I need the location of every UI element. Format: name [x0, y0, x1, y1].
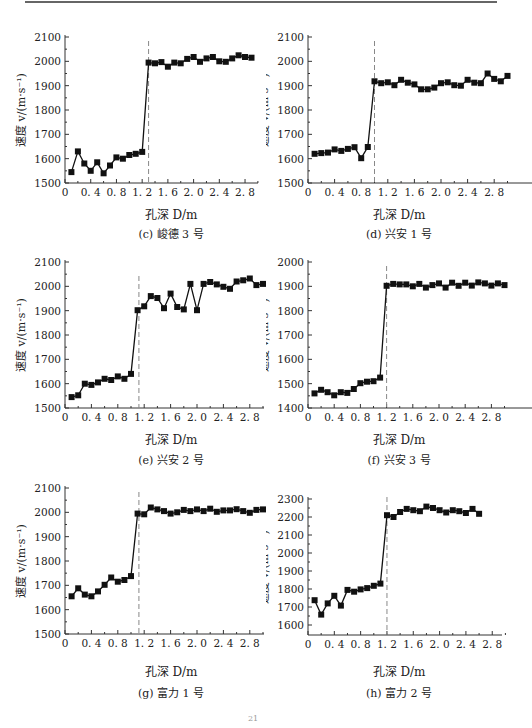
chart-panel-g: 150016001700180019002000210000. 40. 81. … [0, 470, 266, 702]
chart-caption: (c) 峻德 3 号 [38, 225, 304, 241]
data-point-marker [194, 506, 200, 512]
data-point-marker [95, 379, 101, 385]
data-point-marker [338, 148, 344, 154]
y-tick-label: 2000 [34, 506, 61, 518]
y-tick-label: 1900 [34, 80, 61, 92]
data-point-marker [331, 392, 337, 398]
data-point-marker [223, 59, 229, 65]
x-tick-label: 0 [62, 411, 69, 423]
data-point-marker [312, 390, 318, 396]
data-point-marker [249, 55, 255, 61]
data-point-marker [463, 510, 469, 516]
data-point-marker [325, 150, 331, 156]
data-point-marker [181, 306, 187, 312]
data-point-marker [194, 307, 200, 313]
data-point-marker [491, 76, 497, 82]
data-point-marker [146, 60, 152, 66]
data-point-marker [357, 380, 363, 386]
x-tick-label: 2. 4 [456, 638, 476, 650]
data-point-marker [338, 389, 344, 395]
x-tick-label: 2. 8 [240, 411, 260, 423]
data-point-marker [234, 506, 240, 512]
chart-panel-e: 150016001700180019002000210000. 40. 81. … [0, 240, 266, 472]
x-tick-label: 0. 8 [108, 411, 128, 423]
data-point-marker [358, 586, 364, 592]
x-tick-label: 2. 4 [213, 637, 233, 649]
data-point-marker [191, 54, 197, 60]
y-tick-label: 1900 [277, 565, 304, 577]
x-tick-label: 1. 6 [403, 411, 423, 423]
y-tick-label: 2200 [277, 511, 304, 523]
x-axis-label: 孔深 D/m [38, 205, 304, 222]
data-point-marker [445, 79, 451, 85]
y-axis-label: 速度 v/(m·s⁻¹) [14, 73, 28, 147]
data-point-marker [476, 511, 482, 517]
data-point-marker [312, 597, 318, 603]
y-tick-label: 2100 [34, 31, 61, 43]
data-point-marker [443, 285, 449, 291]
data-point-marker [475, 279, 481, 285]
data-point-marker [498, 78, 504, 84]
y-tick-label: 2300 [277, 493, 304, 505]
data-point-marker [410, 507, 416, 513]
data-point-marker [214, 281, 220, 287]
data-point-marker [216, 58, 222, 64]
data-point-marker [165, 64, 171, 70]
y-tick-label: 1700 [277, 601, 304, 613]
y-tick-label: 1700 [277, 128, 304, 140]
data-point-marker [229, 55, 235, 61]
data-point-marker [181, 507, 187, 513]
x-tick-label: 1. 6 [161, 411, 181, 423]
data-point-marker [437, 507, 443, 513]
chart-caption: (f) 兴安 3 号 [266, 451, 532, 467]
data-line [315, 507, 480, 615]
x-tick-label: 2. 0 [187, 411, 207, 423]
data-point-marker [69, 394, 75, 400]
x-tick-label: 2. 4 [458, 186, 478, 198]
data-point-marker [121, 376, 127, 382]
data-point-marker [139, 149, 145, 155]
chart-panel-h: 1600170018001900200021002200230000. 40. … [266, 470, 532, 702]
data-point-marker [410, 283, 416, 289]
x-axis-label: 孔深 D/m [266, 205, 532, 222]
data-point-marker [458, 83, 464, 89]
x-tick-label: 1. 6 [403, 638, 423, 650]
data-point-marker [75, 392, 81, 398]
y-tick-label: 2000 [277, 55, 304, 67]
x-tick-label: 0. 4 [81, 637, 101, 649]
data-point-marker [365, 144, 371, 150]
data-point-marker [325, 389, 331, 395]
data-point-marker [397, 509, 403, 515]
data-point-marker [227, 286, 233, 292]
data-point-marker [184, 56, 190, 62]
data-point-marker [416, 281, 422, 287]
chart-panel-c: 150016001700180019002000210000. 40. 81. … [0, 0, 266, 232]
data-point-marker [242, 54, 248, 60]
data-point-marker [325, 600, 331, 606]
data-point-marker [451, 82, 457, 88]
y-tick-label: 1400 [277, 402, 304, 414]
data-point-marker [236, 52, 242, 58]
y-tick-label: 1600 [34, 153, 61, 165]
data-point-marker [345, 146, 351, 152]
data-point-marker [423, 504, 429, 510]
x-tick-label: 0. 8 [350, 411, 370, 423]
x-axis-label: 孔深 D/m [266, 662, 532, 679]
data-point-marker [82, 381, 88, 387]
data-point-marker [377, 581, 383, 587]
x-axis-label: 孔深 D/m [38, 430, 304, 447]
data-point-marker [75, 148, 81, 154]
x-tick-label: 2. 4 [209, 186, 229, 198]
data-point-marker [318, 150, 324, 156]
y-tick-label: 1600 [34, 378, 61, 390]
y-tick-label: 1900 [34, 305, 61, 317]
x-tick-label: 0 [305, 638, 312, 650]
data-point-marker [450, 507, 456, 513]
data-point-marker [425, 86, 431, 92]
y-tick-label: 1800 [277, 583, 304, 595]
data-point-marker [174, 304, 180, 310]
data-point-marker [154, 295, 160, 301]
data-point-marker [247, 276, 253, 282]
y-tick-label: 1700 [34, 353, 61, 365]
chart-caption: (h) 富力 2 号 [266, 684, 532, 700]
